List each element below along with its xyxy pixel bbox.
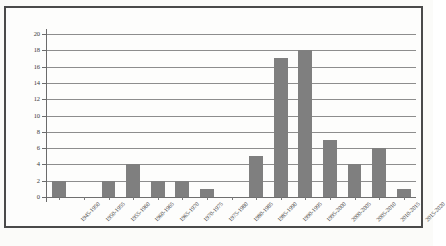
x-axis-tick-label: 1945-1950 [80, 201, 102, 223]
y-axis-tick-mark [42, 197, 46, 198]
x-axis-tick-mark [379, 197, 380, 200]
y-axis-tick-label: 20 [34, 31, 40, 38]
y-axis-tick-label: 14 [34, 80, 40, 87]
bar [348, 164, 362, 197]
plot-area [47, 34, 416, 197]
bar [372, 148, 386, 197]
gridline [47, 50, 416, 51]
gridline [47, 67, 416, 68]
x-axis-tick-mark [256, 197, 257, 200]
y-axis-tick-labels: 02468101214161820 [22, 8, 40, 246]
x-axis-tick-mark [158, 197, 159, 200]
x-axis-tick-label: 1950-1955 [104, 201, 126, 223]
x-axis-tick-mark [355, 197, 356, 200]
y-axis-tick-mark [42, 67, 46, 68]
y-axis-tick-label: 6 [37, 145, 40, 152]
bar [298, 50, 312, 197]
x-axis-tick-mark [404, 197, 405, 200]
y-axis-tick-label: 16 [34, 64, 40, 71]
x-axis-tick-mark [182, 197, 183, 200]
figure-frame: 02468101214161820 1945-19501950-19551955… [4, 6, 423, 228]
x-axis-tick-labels: 1945-19501950-19551955-19601960-19651965… [47, 197, 416, 246]
bar [323, 140, 337, 197]
y-axis-tick-mark [42, 34, 46, 35]
y-axis-tick-mark [42, 164, 46, 165]
y-axis-tick-label: 4 [37, 161, 40, 168]
x-axis-tick-mark [84, 197, 85, 200]
x-axis-tick-mark [207, 197, 208, 200]
bar [249, 156, 263, 197]
y-axis-tick-label: 18 [34, 47, 40, 54]
y-axis-tick-mark [42, 83, 46, 84]
x-axis-tick-mark [281, 197, 282, 200]
x-axis-tick-label: 1985-1990 [276, 201, 298, 223]
y-axis-tick-mark [42, 132, 46, 133]
bar [126, 164, 140, 197]
bar [52, 181, 66, 197]
x-axis-tick-label: 1980-1985 [252, 201, 274, 223]
x-axis-tick-mark [59, 197, 60, 200]
y-axis-tick-mark [42, 50, 46, 51]
y-axis-tick-label: 2 [37, 178, 40, 185]
gridline [47, 116, 416, 117]
x-axis-tick-label: 2000-2005 [350, 201, 372, 223]
gridline [47, 34, 416, 35]
x-axis-tick-label: 1995-2000 [326, 201, 348, 223]
y-axis-tick-label: 8 [37, 129, 40, 136]
bar [175, 181, 189, 197]
x-axis-tick-label: 1955-1960 [129, 201, 151, 223]
bar [151, 181, 165, 197]
bar [102, 181, 116, 197]
gridline [47, 83, 416, 84]
y-axis-tick-label: 12 [34, 96, 40, 103]
x-axis-tick-label: 2010-2015 [399, 201, 421, 223]
gridline [47, 99, 416, 100]
x-axis-tick-mark [330, 197, 331, 200]
x-axis-tick-label: 1975-1980 [227, 201, 249, 223]
y-axis-tick-label: 0 [37, 194, 40, 201]
x-axis-tick-label: 2015-2020 [424, 201, 446, 223]
y-axis-tick-mark [42, 99, 46, 100]
y-axis-tick-mark [42, 116, 46, 117]
x-axis-tick-mark [133, 197, 134, 200]
bar [200, 189, 214, 197]
x-axis-tick-label: 1965-1970 [178, 201, 200, 223]
x-axis-tick-mark [232, 197, 233, 200]
y-axis-tick-mark [42, 148, 46, 149]
bar [274, 58, 288, 197]
x-axis-tick-mark [305, 197, 306, 200]
x-axis-tick-mark [109, 197, 110, 200]
gridline [47, 148, 416, 149]
x-axis-tick-label: 1990-1995 [301, 201, 323, 223]
gridline [47, 132, 416, 133]
bar [397, 189, 411, 197]
y-axis-tick-label: 10 [34, 113, 40, 120]
y-axis-tick-mark [42, 181, 46, 182]
x-axis-tick-label: 2005-2010 [375, 201, 397, 223]
x-axis-tick-label: 1960-1965 [153, 201, 175, 223]
x-axis-tick-label: 1970-1975 [203, 201, 225, 223]
